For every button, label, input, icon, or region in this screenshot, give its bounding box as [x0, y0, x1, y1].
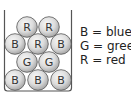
- legend-item-red: R = red: [80, 53, 131, 67]
- ball-blue: B: [51, 70, 72, 91]
- ball-label: B: [11, 74, 19, 87]
- legend-item-blue: B = blue: [80, 25, 131, 39]
- ball-label: R: [23, 21, 31, 34]
- ball-green: G: [39, 52, 60, 73]
- balls-group: RRBRBGGBBB: [5, 17, 72, 91]
- ball-label: B: [11, 38, 19, 51]
- ball-blue: B: [28, 70, 49, 91]
- ball-label: B: [57, 74, 65, 87]
- ball-green: G: [17, 52, 38, 73]
- ball-red: R: [28, 34, 49, 55]
- ball-label: B: [57, 38, 65, 51]
- ball-blue: B: [5, 70, 26, 91]
- ball-label: R: [34, 38, 42, 51]
- legend-item-green: G = green: [80, 39, 131, 53]
- ball-blue: B: [5, 34, 26, 55]
- ball-label: G: [45, 56, 54, 69]
- legend: B = blue G = green R = red: [80, 25, 131, 67]
- ball-blue: B: [51, 34, 72, 55]
- ball-label: B: [34, 74, 42, 87]
- ball-label: G: [23, 56, 32, 69]
- ball-label: R: [45, 21, 53, 34]
